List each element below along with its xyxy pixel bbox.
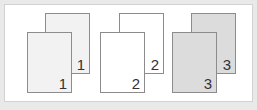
page-number: 1: [59, 76, 67, 91]
page-number: 1: [77, 57, 85, 72]
page-number: 2: [151, 57, 159, 72]
page-stack-3-front: 3: [172, 32, 217, 93]
page-stack-1-front: 1: [27, 32, 72, 93]
page-stack-2-front: 2: [100, 32, 145, 93]
page-number: 3: [223, 57, 231, 72]
page-number: 2: [132, 76, 140, 91]
page-number: 3: [204, 76, 212, 91]
